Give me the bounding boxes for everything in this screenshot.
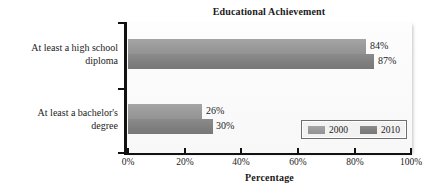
y-axis-tick bbox=[118, 152, 125, 154]
legend-label-2000: 2000 bbox=[329, 125, 348, 135]
chart-title: Educational Achievement bbox=[128, 6, 410, 17]
value-label-bachelors-2000: 26% bbox=[206, 105, 224, 116]
category-label-line: diploma bbox=[0, 55, 118, 68]
chart-container: Educational Achievement At least a high … bbox=[0, 0, 447, 196]
x-axis-tick-0 bbox=[127, 148, 129, 155]
value-label-high-school-2000: 84% bbox=[370, 40, 388, 51]
value-label-bachelors-2010: 30% bbox=[216, 120, 234, 131]
category-label-line: degree bbox=[0, 120, 118, 133]
category-label-line: At least a bachelor's bbox=[0, 107, 118, 120]
x-axis-tick-60 bbox=[297, 148, 299, 155]
legend-label-2010: 2010 bbox=[381, 125, 400, 135]
category-label-bachelors: At least a bachelor's degree bbox=[0, 107, 118, 132]
x-axis-line bbox=[124, 153, 412, 155]
category-label-line: At least a high school bbox=[0, 42, 118, 55]
bar-high-school-2010 bbox=[128, 54, 374, 69]
x-tick-label-0: 0% bbox=[106, 157, 150, 167]
x-tick-label-80: 80% bbox=[333, 157, 377, 167]
x-axis-tick-100 bbox=[410, 148, 412, 155]
value-label-high-school-2010: 87% bbox=[378, 55, 396, 66]
x-tick-label-60: 60% bbox=[276, 157, 320, 167]
legend-entry-2010: 2010 bbox=[360, 125, 400, 135]
chart-legend: 2000 2010 bbox=[301, 120, 407, 139]
y-axis-tick bbox=[118, 88, 125, 90]
x-tick-label-20: 20% bbox=[163, 157, 207, 167]
bar-bachelors-2010 bbox=[128, 119, 213, 134]
x-tick-label-100: 100% bbox=[389, 157, 433, 167]
category-label-high-school: At least a high school diploma bbox=[0, 42, 118, 67]
bar-high-school-2000 bbox=[128, 39, 366, 54]
y-axis-tick bbox=[118, 22, 125, 24]
x-axis-tick-20 bbox=[184, 148, 186, 155]
x-axis-title: Percentage bbox=[127, 172, 412, 183]
legend-swatch-icon-2000 bbox=[308, 126, 325, 134]
bar-bachelors-2000 bbox=[128, 104, 202, 119]
x-tick-label-40: 40% bbox=[219, 157, 263, 167]
x-axis-tick-40 bbox=[240, 148, 242, 155]
legend-swatch-icon-2010 bbox=[360, 126, 377, 134]
x-axis-tick-80 bbox=[354, 148, 356, 155]
legend-entry-2000: 2000 bbox=[308, 125, 348, 135]
